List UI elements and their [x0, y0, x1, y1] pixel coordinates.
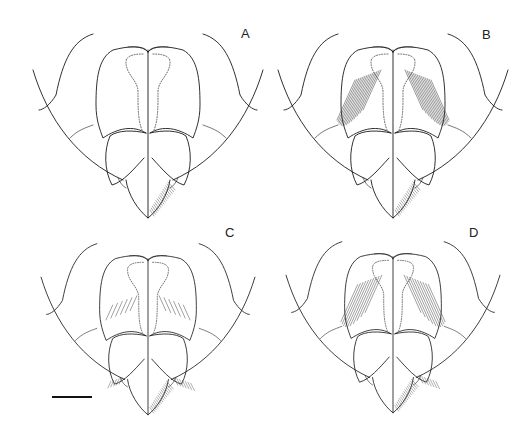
hatch-line — [341, 77, 363, 125]
hatch-line — [106, 305, 113, 320]
seta — [408, 189, 414, 196]
seta — [430, 379, 434, 386]
hatch-line — [409, 72, 429, 117]
hatch-line — [347, 75, 369, 125]
hatch-line — [363, 70, 381, 110]
shoulder-right — [448, 34, 502, 110]
dotted-outline-right — [398, 54, 415, 130]
hatch-line — [417, 75, 439, 125]
hatch-line — [349, 74, 371, 123]
hatch-line — [405, 70, 423, 110]
body-outline-right — [418, 70, 508, 180]
lower-lobe-right — [395, 131, 435, 185]
lower-lobe-right — [395, 332, 432, 382]
body-outline-left — [41, 277, 125, 379]
hatch-line — [350, 279, 371, 325]
hatch-line — [130, 296, 137, 311]
lower-lobe-left — [354, 332, 391, 382]
hatch-line — [365, 275, 382, 312]
shoulder-right — [444, 242, 494, 313]
dotted-outline-left — [128, 262, 144, 333]
figure: A B C D — [0, 0, 518, 430]
hatch-line — [407, 276, 425, 316]
seta — [116, 379, 119, 386]
panel-label-d: D — [469, 226, 478, 239]
transverse-line-right — [203, 125, 226, 138]
hatch-line — [421, 76, 443, 125]
lower-lobe-right — [150, 334, 187, 384]
hatch-line — [345, 75, 367, 125]
hatch-line — [353, 278, 373, 323]
seta — [108, 381, 111, 388]
shoulder-left — [284, 34, 338, 110]
hatch-line — [415, 279, 436, 325]
seta — [111, 380, 114, 387]
hatch-line — [425, 78, 446, 125]
dotted-outline-right — [398, 260, 414, 331]
hatch-line — [345, 281, 365, 326]
setae — [395, 376, 440, 411]
dotted-outline-left — [371, 54, 388, 130]
seta — [436, 381, 440, 388]
hatch-line — [428, 285, 445, 322]
shoulder-right — [203, 34, 257, 110]
hatch-line — [431, 80, 449, 120]
panel-b — [278, 34, 508, 218]
hatch-line — [120, 300, 127, 315]
hatch-line — [420, 281, 440, 326]
shoulder-left — [47, 244, 97, 315]
transverse-line-left — [315, 125, 338, 138]
seta — [185, 381, 189, 388]
dotted-outline-right — [153, 262, 169, 333]
hatch-line — [340, 78, 361, 125]
drawing-canvas — [0, 0, 518, 430]
hatch-line — [415, 74, 437, 123]
lower-lobe-left — [109, 334, 146, 384]
transverse-line-left — [70, 125, 93, 138]
dotted-outline-left — [126, 54, 143, 130]
panel-label-c: C — [225, 226, 234, 239]
body-outline-right — [173, 70, 263, 180]
transverse-line-right — [199, 328, 220, 340]
seta — [163, 189, 169, 196]
hatch-line — [423, 77, 445, 125]
seta — [427, 378, 431, 385]
seta — [191, 383, 195, 390]
hatch-line — [125, 298, 132, 313]
hatch-line — [348, 280, 369, 326]
hatch-line — [413, 73, 435, 121]
hatch-line — [159, 296, 166, 311]
hatch-line — [418, 280, 439, 326]
hatch-line — [343, 76, 365, 125]
panel-label-a: A — [241, 27, 250, 40]
body-outline-right — [171, 277, 255, 379]
transverse-line-right — [448, 125, 471, 138]
shoulder-right — [199, 244, 249, 315]
body-outline-left — [278, 70, 368, 180]
hatch-line — [164, 298, 171, 313]
hatch-line — [412, 278, 432, 323]
transverse-line-left — [75, 328, 96, 340]
panel-a — [33, 34, 263, 218]
hatch-line — [337, 80, 355, 120]
shoulder-left — [39, 34, 93, 110]
lower-lobe-left — [351, 131, 391, 185]
hatch-line — [341, 285, 358, 322]
panel-label-b: B — [482, 28, 491, 41]
hatch-line — [174, 301, 181, 316]
dotted-outline-right — [153, 54, 170, 130]
shoulder-left — [292, 242, 342, 313]
panel-c — [41, 244, 255, 415]
panel-d — [286, 242, 500, 413]
hatch-line — [169, 300, 176, 315]
transverse-line-left — [320, 326, 341, 338]
hatch-line — [404, 275, 421, 312]
hatch-line — [361, 276, 379, 316]
lower-lobe-right — [150, 131, 190, 185]
hatch-line — [357, 72, 377, 117]
hatch-line — [351, 73, 373, 121]
hatch-line — [183, 305, 190, 320]
dotted-outline-left — [373, 260, 389, 331]
seta — [182, 380, 186, 387]
seta — [433, 380, 437, 387]
